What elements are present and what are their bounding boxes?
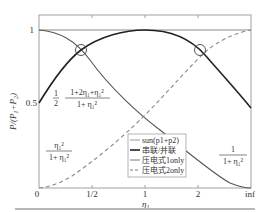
x-tick-half: 1/2 (86, 189, 98, 199)
svg-text:2: 2 (54, 99, 58, 108)
y-axis-label: P/(P1+P2) (8, 93, 19, 131)
y-tick-0-5: 0.5 (26, 98, 38, 108)
svg-text:1: 1 (231, 145, 235, 154)
bottom-separator (15, 208, 255, 210)
x-tick-1: 1 (143, 189, 148, 199)
svg-text:1+2η₁+η₁²: 1+2η₁+η₁² (70, 88, 104, 97)
svg-text:压电式1only: 压电式1only (142, 155, 184, 165)
y-tick-1: 1 (30, 25, 35, 35)
svg-text:η₁²: η₁² (54, 141, 64, 150)
svg-text:压电式2only: 压电式2only (142, 165, 184, 175)
x-tick-0: 0 (35, 189, 40, 199)
annotation-series-parallel-formula: 1 2 1+2η₁+η₁² 1+ η₁² (53, 88, 110, 109)
svg-text:1: 1 (54, 89, 58, 98)
x-tick-2: 2 (196, 189, 201, 199)
svg-text:1+ η₁²: 1+ η₁² (77, 100, 97, 109)
svg-text:1+ η₁²: 1+ η₁² (223, 157, 243, 166)
svg-text:sun(p1+p2): sun(p1+p2) (142, 136, 179, 145)
svg-text:串联/并联: 串联/并联 (142, 145, 176, 155)
legend: sun(p1+p2) 串联/并联 压电式1only 压电式2only (128, 134, 186, 177)
svg-text:1+ η₁²: 1+ η₁² (49, 153, 69, 162)
chart: 1 0.5 P/(P1+P2) 0 1/2 1 2 inf η1 1 2 1+2… (0, 0, 260, 212)
annotation-piezo2-formula: η₁² 1+ η₁² (46, 141, 72, 162)
annotation-piezo1-formula: 1 1+ η₁² (219, 145, 247, 166)
x-tick-inf: inf (245, 189, 255, 199)
